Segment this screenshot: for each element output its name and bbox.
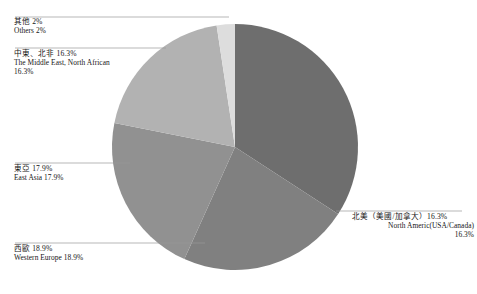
callout-western-europe: 西歐 18.9% Western Europe 18.9% (14, 245, 83, 263)
pie-slices (112, 24, 358, 270)
callout-east-asia-en: East Asia 17.9% (14, 174, 63, 183)
callout-others: 其他 2% Others 2% (14, 18, 46, 36)
callout-east-asia: 東亞 17.9% East Asia 17.9% (14, 165, 63, 183)
callout-north-america-en2: 16.3% (352, 231, 474, 240)
callout-middle-east: 中東、北非 16.3% The Middle East, North Afric… (14, 50, 138, 76)
callout-others-en: Others 2% (14, 27, 46, 36)
callout-middle-east-en2: 16.3% (14, 68, 138, 77)
chart-canvas: 其他 2% Others 2% 中東、北非 16.3% The Middle E… (0, 0, 477, 294)
callout-western-europe-en: Western Europe 18.9% (14, 254, 83, 263)
callout-north-america: 北美（美國/加拿大）16.3% North Americ(USA/Canada)… (352, 213, 474, 239)
